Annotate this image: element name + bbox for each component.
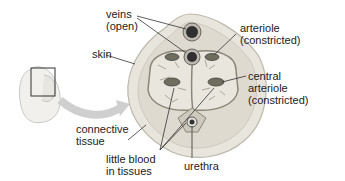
arrow	[60, 100, 120, 115]
label-central-arteriole: central arteriole (constricted)	[248, 70, 309, 106]
label-skin: skin	[92, 48, 112, 60]
label-veins: veins (open)	[106, 8, 138, 32]
label-urethra: urethra	[184, 160, 219, 172]
label-arteriole: arteriole (constricted)	[240, 22, 301, 46]
diagram: veins (open) skin arteriole (constricted…	[0, 0, 345, 181]
label-little-blood: little blood in tissues	[106, 153, 156, 177]
label-connective-tissue: connective tissue	[76, 123, 129, 147]
hand-illustration	[19, 67, 60, 123]
